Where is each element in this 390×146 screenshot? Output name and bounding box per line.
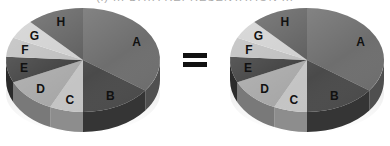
slice-label-F: F	[245, 43, 252, 57]
slice-label-H: H	[281, 15, 290, 29]
slice-label-F: F	[21, 43, 28, 57]
slice-label-C: C	[290, 93, 299, 107]
slice-label-D: D	[260, 82, 269, 96]
pie-chart-left: ABCDEFGH	[6, 8, 160, 133]
slice-label-G: G	[254, 29, 263, 43]
slice-label-H: H	[57, 15, 66, 29]
slice-label-B: B	[330, 89, 339, 103]
slice-label-B: B	[106, 89, 115, 103]
slice-label-C: C	[66, 93, 75, 107]
slice-label-A: A	[356, 35, 365, 49]
slice-label-E: E	[244, 61, 252, 75]
slice-label-A: A	[132, 35, 141, 49]
figure-canvas: ABCDEFGH ABCDEFGH	[0, 0, 390, 146]
slice-label-D: D	[36, 82, 45, 96]
equals-sign	[183, 53, 207, 67]
slice-label-E: E	[20, 61, 28, 75]
pie-chart-right: ABCDEFGH	[230, 8, 384, 133]
slice-label-G: G	[30, 29, 39, 43]
